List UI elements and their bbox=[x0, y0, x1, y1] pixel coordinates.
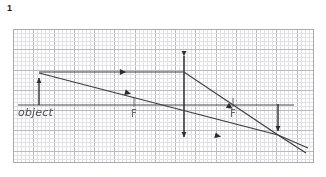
label-object: object bbox=[18, 106, 53, 119]
light-rays bbox=[39, 69, 308, 153]
diagram-canvas: 1 object F F bbox=[0, 0, 326, 177]
label-focal-point-right: F bbox=[230, 108, 236, 119]
label-focal-point-left: F bbox=[131, 108, 137, 119]
ray-diagram bbox=[0, 0, 326, 177]
